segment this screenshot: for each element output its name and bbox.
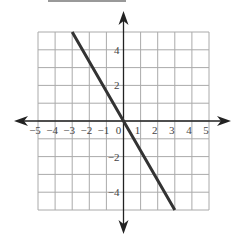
x-tick-label: −5	[29, 124, 41, 136]
y-tick-label: −2	[108, 151, 120, 163]
x-tick-label: −3	[63, 124, 75, 136]
x-tick-label: 1	[135, 124, 141, 136]
x-tick-label: −2	[80, 124, 92, 136]
x-tick-label: 5	[203, 124, 209, 136]
x-tick-label: 2	[152, 124, 158, 136]
y-tick-label: 4	[114, 44, 120, 56]
axes	[14, 11, 231, 234]
x-tick-label: −4	[46, 124, 58, 136]
y-tick-label: −4	[108, 186, 120, 198]
coordinate-plane: −5−4−3−2−101234542−2−4	[0, 0, 241, 245]
y-tick-label: 2	[114, 79, 120, 91]
x-tick-label: 4	[186, 124, 192, 136]
x-tick-label: 0	[116, 124, 122, 136]
x-tick-label: −1	[98, 124, 110, 136]
x-tick-label: 3	[169, 124, 175, 136]
